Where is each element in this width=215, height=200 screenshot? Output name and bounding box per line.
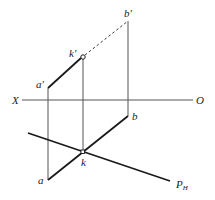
projection-diagram: b′ k′ a′ X O b k a PH <box>0 0 215 200</box>
label-axis-o: O <box>196 94 204 106</box>
point-k-marker <box>81 150 85 154</box>
label-k: k <box>81 156 87 168</box>
label-k-prime: k′ <box>69 47 77 59</box>
label-a-prime: a′ <box>36 78 45 90</box>
label-a: a <box>38 174 44 186</box>
segment-k-prime-b-prime-hidden <box>85 21 128 55</box>
label-plane-trace: PH <box>175 178 189 192</box>
label-b-prime: b′ <box>124 7 133 19</box>
label-b: b <box>132 110 138 122</box>
segment-a-prime-k-prime <box>48 58 81 88</box>
point-k-prime-marker <box>81 55 85 59</box>
label-axis-x: X <box>11 94 20 106</box>
segment-a-b <box>48 116 128 180</box>
